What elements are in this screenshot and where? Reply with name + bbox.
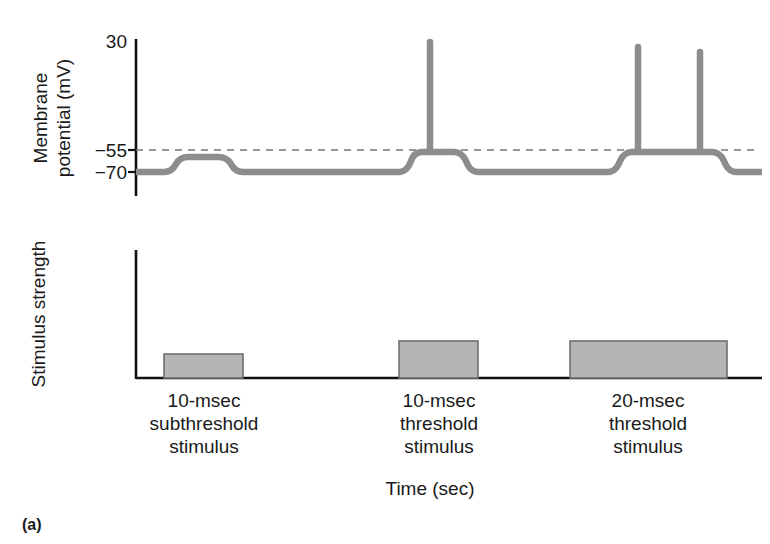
bottom-plot-x-axis-title: Time (sec) bbox=[385, 478, 474, 499]
category-1-line3: stimulus bbox=[169, 436, 239, 457]
category-2-line3: stimulus bbox=[404, 436, 474, 457]
stimulus-bar-1 bbox=[164, 354, 243, 378]
top-plot-tick-label-30: 30 bbox=[106, 31, 127, 52]
category-1-line1: 10-msec bbox=[168, 390, 241, 411]
category-3-line2: threshold bbox=[609, 413, 687, 434]
top-plot-tick-label-minus70: −70 bbox=[95, 162, 127, 183]
bottom-plot-y-axis-title: Stimulus strength bbox=[28, 241, 49, 388]
top-plot-tick-label-minus55: −55 bbox=[95, 140, 127, 161]
membrane-potential-trace bbox=[136, 42, 762, 172]
category-2-line1: 10-msec bbox=[403, 390, 476, 411]
stimulus-bar-3 bbox=[570, 341, 727, 378]
top-plot-y-axis-title-line2: potential (mV) bbox=[53, 59, 74, 177]
stimulus-bar-2 bbox=[399, 341, 478, 378]
category-1-line2: subthreshold bbox=[150, 413, 259, 434]
figure-container: 30 −55 −70 Membrane potential (mV) Stimu… bbox=[0, 0, 770, 544]
figure-svg: 30 −55 −70 Membrane potential (mV) Stimu… bbox=[0, 0, 770, 544]
panel-label: (a) bbox=[22, 516, 42, 533]
category-3-line1: 20-msec bbox=[612, 390, 685, 411]
category-3-line3: stimulus bbox=[613, 436, 683, 457]
category-2-line2: threshold bbox=[400, 413, 478, 434]
top-plot-y-axis-title-line1: Membrane bbox=[30, 73, 51, 164]
